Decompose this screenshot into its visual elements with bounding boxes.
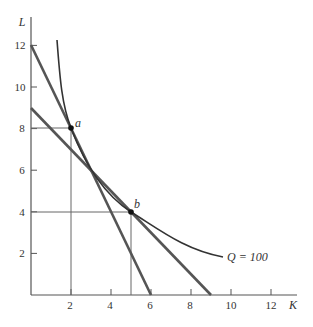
point-b <box>128 209 134 215</box>
y-tick-labels: 2 4 6 8 10 12 <box>15 39 27 259</box>
svg-text:12: 12 <box>266 299 277 311</box>
guide-lines <box>31 128 131 295</box>
svg-text:6: 6 <box>19 164 25 176</box>
svg-text:10: 10 <box>15 81 27 93</box>
svg-text:6: 6 <box>147 299 153 311</box>
y-axis-label: L <box>18 15 26 29</box>
x-tick-labels: 2 4 6 8 10 12 <box>67 299 276 311</box>
point-b-label: b <box>134 197 140 211</box>
y-ticks <box>31 45 37 253</box>
point-a-label: a <box>75 116 81 130</box>
svg-text:2: 2 <box>19 247 25 259</box>
svg-text:8: 8 <box>187 299 193 311</box>
svg-text:8: 8 <box>19 122 25 134</box>
svg-text:12: 12 <box>15 39 26 51</box>
isoquant-chart: 2 4 6 8 10 12 L 2 4 6 8 10 12 K a b Q = <box>0 0 313 327</box>
x-axis-label: K <box>288 298 298 312</box>
curve-label: Q = 100 <box>227 250 268 264</box>
svg-text:4: 4 <box>19 206 25 218</box>
isocost-line-shallow <box>31 108 211 295</box>
svg-text:10: 10 <box>226 299 238 311</box>
svg-text:2: 2 <box>67 299 73 311</box>
svg-text:4: 4 <box>107 299 113 311</box>
point-a <box>68 125 74 131</box>
x-ticks <box>71 289 271 295</box>
